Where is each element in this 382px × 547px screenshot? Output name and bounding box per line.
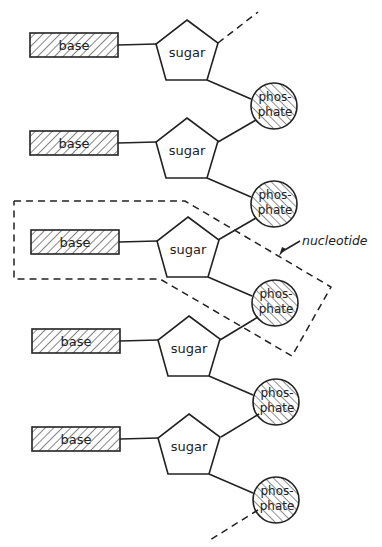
phosphate-label-line2: phate <box>258 105 293 119</box>
chain-continuation-bottom <box>210 510 258 540</box>
base-sugar-bond <box>120 340 158 341</box>
sugar-label: sugar <box>169 143 206 158</box>
nucleotide-arrow <box>283 241 300 251</box>
phosphate-label-line2: phate <box>260 499 295 513</box>
sugar-label: sugar <box>171 439 208 454</box>
phosphate-label-line1: phos- <box>259 287 292 301</box>
phosphate-label-line1: phos- <box>260 386 293 400</box>
base-label: base <box>60 235 91 250</box>
unit-2: base sugar phos- phate <box>31 217 298 326</box>
arrowhead-icon <box>279 247 286 256</box>
sugar-label: sugar <box>169 45 206 60</box>
sugar-phosphate-bond <box>209 474 253 493</box>
chain-continuation-top <box>218 12 258 43</box>
base-sugar-bond <box>120 438 158 439</box>
base-label: base <box>61 334 92 349</box>
base-sugar-bond <box>118 142 156 143</box>
sugar-label: sugar <box>171 341 208 356</box>
base-label: base <box>59 38 90 53</box>
unit-3: base sugar phos- phate <box>32 316 299 425</box>
unit-0: base sugar phos- phate <box>30 20 297 129</box>
unit-4: base sugar phos- phate <box>32 414 299 523</box>
sugar-phosphate-bond <box>207 80 251 99</box>
phosphate-label-line2: phate <box>259 302 294 316</box>
phosphodiester-bond <box>218 218 256 240</box>
phosphodiester-bond <box>220 317 258 340</box>
phosphodiester-bond <box>218 120 256 142</box>
base-label: base <box>61 432 92 447</box>
phosphate-label-line1: phos- <box>258 90 291 104</box>
sugar-phosphate-bond <box>207 178 251 197</box>
base-sugar-bond <box>118 44 156 45</box>
sugar-phosphate-bond <box>208 277 252 296</box>
unit-1: base sugar phos- phate <box>30 118 297 227</box>
phosphate-label-line2: phate <box>260 401 295 415</box>
phosphate-label-line1: phos- <box>260 484 293 498</box>
base-label: base <box>59 136 90 151</box>
sugar-label: sugar <box>170 242 207 257</box>
phosphate-label-line2: phate <box>258 203 293 217</box>
phosphodiester-bond <box>221 414 259 437</box>
nucleotide-chain-diagram: base sugar phos- phate base sugar phos- … <box>0 0 382 547</box>
nucleotide-label: nucleotide <box>302 233 368 248</box>
sugar-phosphate-bond <box>209 376 253 395</box>
base-sugar-bond <box>119 241 157 242</box>
phosphate-label-line1: phos- <box>258 188 291 202</box>
